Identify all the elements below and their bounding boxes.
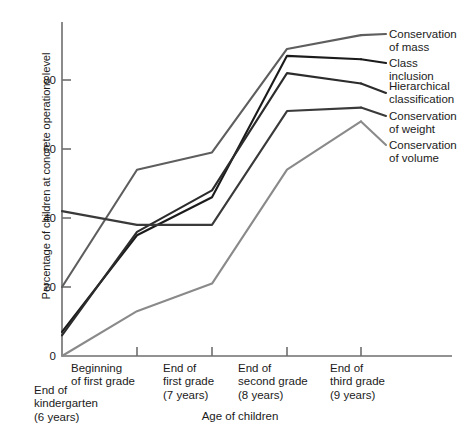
y-tick-label-60: 60 <box>30 143 56 155</box>
y-tick-marks <box>62 80 71 287</box>
legend-leader-0 <box>361 34 386 35</box>
series-line-2 <box>62 73 361 335</box>
figure: Percentage of children at concrete opera… <box>0 0 464 446</box>
series-line-1 <box>62 56 361 332</box>
legend-leader-1 <box>361 59 386 63</box>
series-lines <box>62 35 361 356</box>
series-line-4 <box>62 121 361 356</box>
legend-label-conservation-of-volume: Conservation of volume <box>389 139 457 166</box>
x-tick-label-end-second-grade: End of second grade (8 years) <box>238 362 308 402</box>
x-axis-title: Age of children <box>150 410 330 422</box>
y-tick-label-40: 40 <box>30 212 56 224</box>
y-tick-label-0: 0 <box>30 350 56 362</box>
legend-leader-2 <box>361 83 386 93</box>
x-tick-label-beginning-first-grade: Beginning of first grade <box>71 362 135 389</box>
x-tick-label-end-of-kindergarten: End of kindergarten (6 years) <box>34 384 98 424</box>
legend-label-conservation-of-weight: Conservation of weight <box>389 110 457 137</box>
legend-label-conservation-of-mass: Conservation of mass <box>389 28 457 55</box>
series-line-0 <box>62 35 361 287</box>
series-line-3 <box>62 108 361 225</box>
legend-leader-lines <box>361 34 386 145</box>
legend-leader-3 <box>361 108 386 116</box>
x-tick-label-end-first-grade: End of first grade (7 years) <box>163 362 214 402</box>
y-tick-label-20: 20 <box>30 281 56 293</box>
legend-leader-4 <box>361 121 386 145</box>
x-tick-marks <box>137 347 361 356</box>
legend-label-hierarchical-classification: Hierarchical classification <box>389 80 454 107</box>
y-tick-label-80: 80 <box>30 74 56 86</box>
x-tick-label-end-third-grade: End of third grade (9 years) <box>330 362 385 402</box>
